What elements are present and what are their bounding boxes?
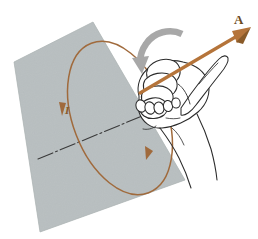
figure-canvas: A I	[0, 0, 258, 239]
current-loop-plane	[0, 0, 258, 239]
physics-figure: A I	[0, 0, 258, 239]
current-label: I	[64, 104, 70, 116]
area-vector-label: A	[234, 12, 244, 27]
